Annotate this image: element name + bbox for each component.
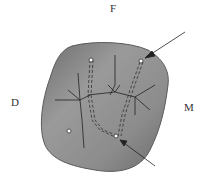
canal-opening-2: [139, 59, 143, 63]
label-right: M: [184, 101, 194, 113]
label-left: D: [11, 96, 19, 108]
canal-opening-1: [89, 58, 93, 62]
diagram-canvas: F D M: [0, 0, 201, 188]
tooth-section-figure: [0, 0, 201, 188]
tooth-cross-section: [41, 43, 168, 172]
canal-opening-4: [67, 129, 71, 133]
canal-opening-3: [114, 134, 118, 138]
label-top: F: [110, 2, 116, 14]
